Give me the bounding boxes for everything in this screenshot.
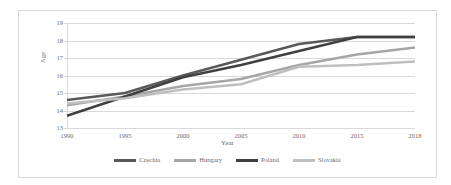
- legend-swatch-icon: [114, 159, 136, 162]
- legend-item-poland[interactable]: Poland: [236, 157, 279, 164]
- x-axis-title: Year: [19, 139, 436, 147]
- legend-item-hungary[interactable]: Hungary: [174, 157, 222, 164]
- series-line-poland: [67, 37, 415, 116]
- y-axis-tick-label: 18: [57, 37, 64, 44]
- legend-item-slovakia[interactable]: Slovakia: [293, 157, 341, 164]
- series-line-czechia: [67, 37, 415, 100]
- y-axis-tick-label: 17: [57, 55, 64, 62]
- y-axis-tick-mark: [64, 128, 67, 129]
- legend-swatch-icon: [174, 159, 196, 162]
- legend-label: Poland: [261, 157, 279, 164]
- plot-area: 19181716151413 1990199520002005201020152…: [67, 23, 415, 128]
- legend-swatch-icon: [236, 159, 258, 162]
- legend-swatch-icon: [293, 159, 315, 162]
- y-axis-tick-label: 14: [57, 107, 64, 114]
- y-axis-tick-label: 19: [57, 20, 64, 27]
- y-axis-tick-label: 15: [57, 90, 64, 97]
- y-axis-tick-label: 16: [57, 72, 64, 79]
- series-lines: [67, 23, 415, 128]
- y-axis-title: Age: [39, 52, 46, 63]
- series-line-hungary: [67, 48, 415, 106]
- chart-figure: Age 19181716151413 199019952000200520102…: [18, 10, 437, 178]
- legend-label: Czechia: [139, 157, 160, 164]
- y-axis-tick-label: 13: [57, 125, 64, 132]
- legend-label: Slovakia: [318, 157, 341, 164]
- gridline: [67, 128, 415, 129]
- legend-item-czechia[interactable]: Czechia: [114, 157, 160, 164]
- chart-legend: CzechiaHungaryPolandSlovakia: [19, 157, 436, 164]
- legend-label: Hungary: [199, 157, 222, 164]
